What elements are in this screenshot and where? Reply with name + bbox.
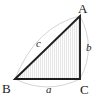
vertex-label-c: C bbox=[80, 83, 89, 96]
side-label-b: b bbox=[86, 42, 92, 53]
side-label-a: a bbox=[46, 84, 52, 95]
side-label-c: c bbox=[36, 38, 41, 49]
vertex-label-a: A bbox=[78, 2, 87, 15]
vertex-label-b: B bbox=[2, 82, 11, 95]
geometry-figure: A B C a b c bbox=[0, 0, 104, 107]
